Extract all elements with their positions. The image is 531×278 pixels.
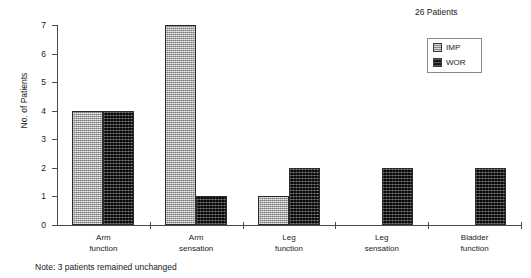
y-tick-label-3: 3 (8, 135, 46, 143)
chart-footnote: Note: 3 patients remained unchanged (35, 262, 177, 272)
y-tick-label-5: 5 (8, 78, 46, 86)
legend-label-wor: WOR (446, 58, 466, 67)
bar-imp-leg-function (258, 196, 289, 225)
legend-swatch-imp (433, 43, 442, 52)
x-separator-tick-5 (521, 222, 522, 229)
y-tick-label-0: 0 (8, 221, 46, 229)
x-label-line: function (420, 244, 530, 255)
y-tick-label-4: 4 (8, 107, 46, 115)
x-label-line: Bladder (420, 233, 530, 244)
bar-imp-arm-sensation (165, 25, 196, 225)
bar-imp-arm-function (72, 111, 103, 225)
legend-label-imp: IMP (446, 43, 460, 52)
y-tick-0 (52, 225, 58, 226)
y-tick-label-7: 7 (8, 21, 46, 29)
x-axis-line (57, 225, 521, 226)
legend-entry-wor: WOR (433, 58, 466, 67)
legend-box: IMP WOR (427, 38, 482, 73)
bar-wor-arm-sensation (196, 196, 227, 225)
bar-chart-figure: No. of Patients 01234567 ArmfunctionArms… (0, 0, 531, 278)
y-tick-label-6: 6 (8, 50, 46, 58)
bar-wor-leg-function (289, 168, 320, 225)
bar-wor-leg-sensation (382, 168, 413, 225)
patient-count-label: 26 Patients (415, 7, 458, 17)
legend-entry-imp: IMP (433, 43, 460, 52)
legend-swatch-wor (433, 58, 442, 67)
bar-wor-arm-function (103, 111, 134, 225)
y-tick-label-2: 2 (8, 164, 46, 172)
bar-wor-bladder-function (475, 168, 506, 225)
y-tick-label-1: 1 (8, 192, 46, 200)
x-label-bladder-function: Bladderfunction (420, 233, 530, 254)
